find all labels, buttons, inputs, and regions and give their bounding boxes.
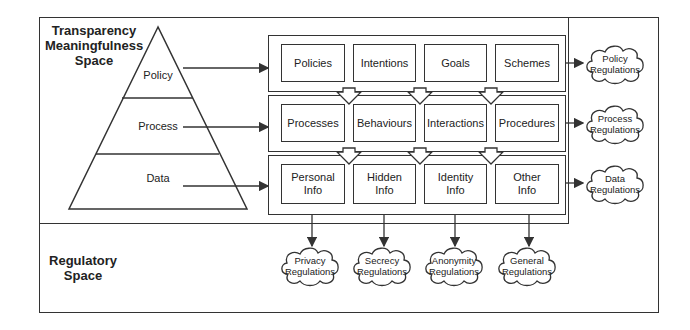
- cloud-privacy-regulations: PrivacyRegulations: [278, 244, 342, 288]
- down-arrow-icon: [479, 148, 503, 164]
- cloud-label: Regulations: [357, 266, 407, 277]
- cloud-label: Regulations: [590, 124, 640, 135]
- cloud-label: General: [510, 255, 544, 266]
- cloud-label: Regulations: [502, 266, 552, 277]
- down-arrow-icon: [408, 88, 432, 104]
- down-arrow-icon: [479, 88, 503, 104]
- down-arrow-icon: [337, 88, 361, 104]
- cloud-label: Privacy: [294, 255, 325, 266]
- cloud-label: Policy: [602, 53, 627, 64]
- cloud-process-regulations: ProcessRegulations: [583, 102, 647, 146]
- cloud-data-regulations: DataRegulations: [583, 162, 647, 206]
- down-arrow-icon: [337, 148, 361, 164]
- cloud-label: Secrecy: [365, 255, 399, 266]
- cloud-general-regulations: GeneralRegulations: [495, 244, 559, 288]
- cloud-label: Regulations: [590, 64, 640, 75]
- cloud-label: Regulations: [429, 266, 479, 277]
- cloud-label: Regulations: [285, 266, 335, 277]
- cloud-label: Anonymity: [432, 255, 476, 266]
- pyramid-tier-policy: Policy: [128, 69, 188, 81]
- cloud-anonymity-regulations: AnonymityRegulations: [422, 244, 486, 288]
- cloud-label: Process: [598, 113, 632, 124]
- cloud-secrecy-regulations: SecrecyRegulations: [350, 244, 414, 288]
- cloud-label: Regulations: [590, 184, 640, 195]
- cloud-label: Data: [605, 173, 625, 184]
- down-arrow-icon: [408, 148, 432, 164]
- cloud-policy-regulations: PolicyRegulations: [583, 42, 647, 86]
- pyramid-tier-data: Data: [128, 172, 188, 184]
- pyramid-tier-process: Process: [128, 120, 188, 132]
